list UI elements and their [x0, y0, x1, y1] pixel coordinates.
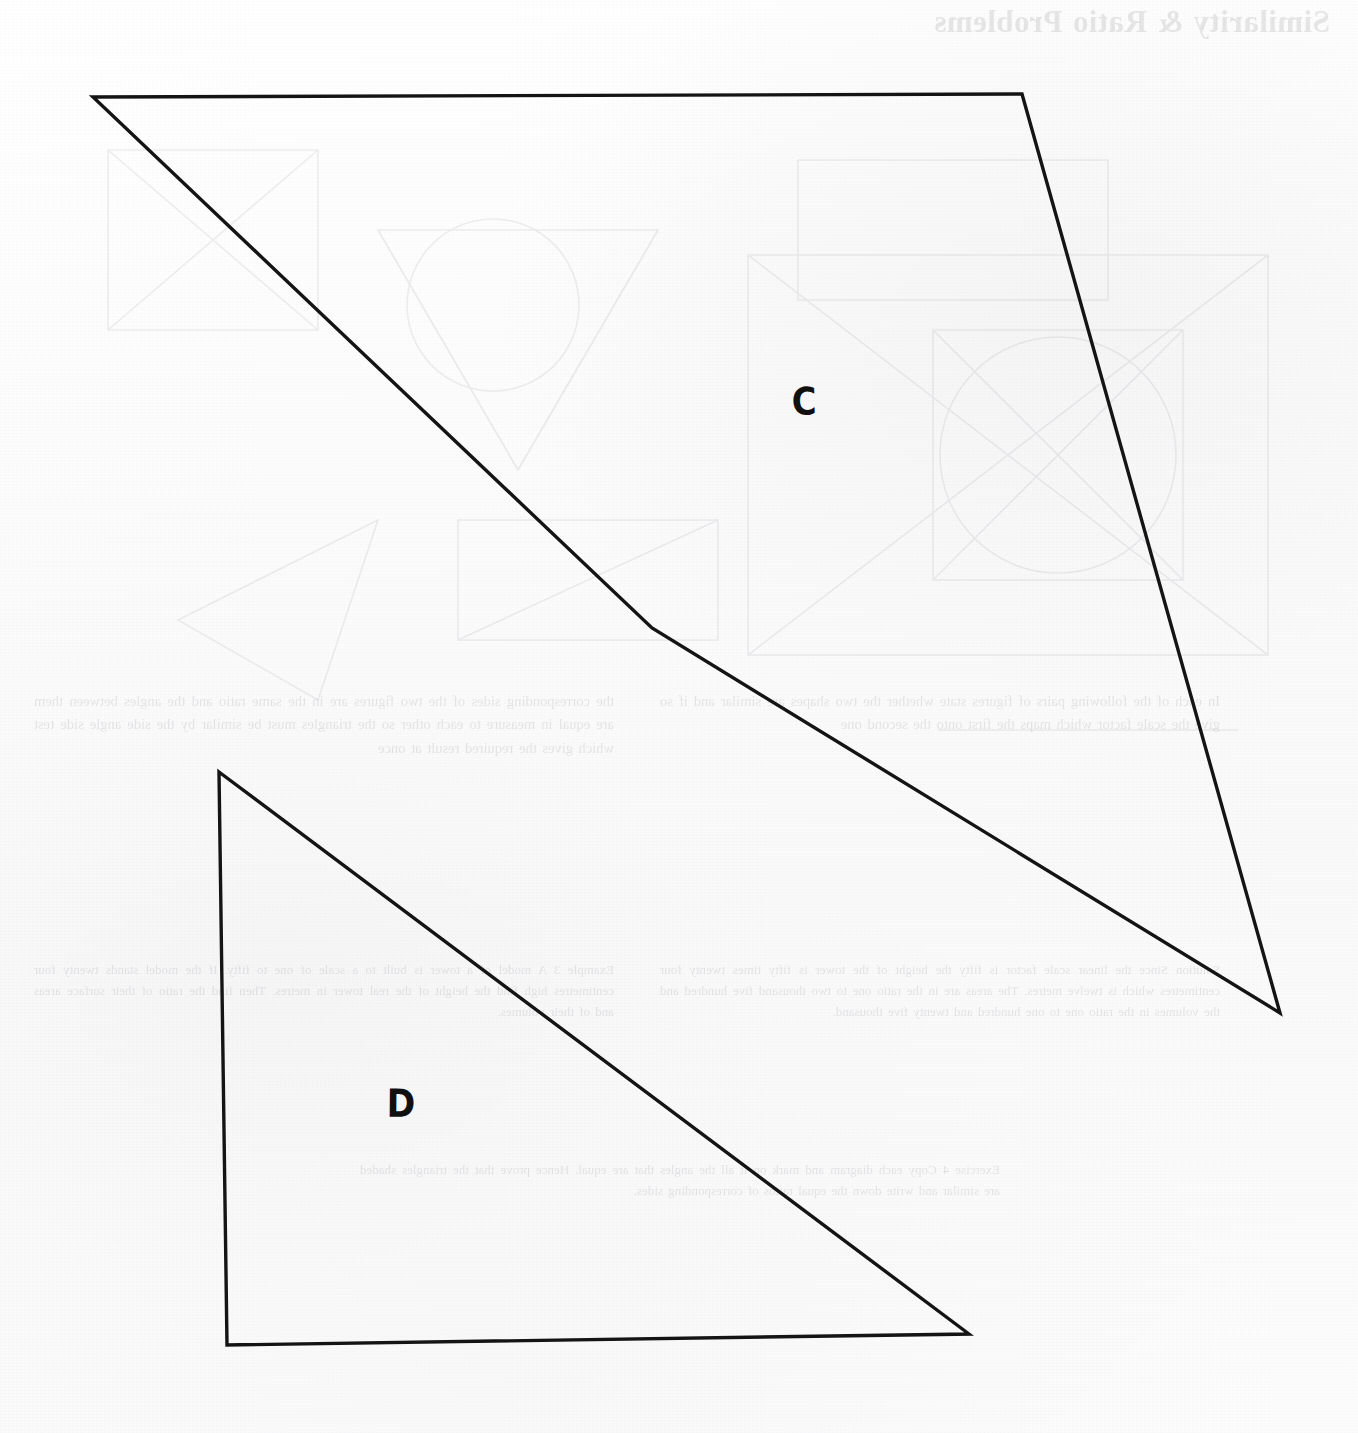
bleed-through-text-layer: Similarity & Ratio Problems the correspo… — [0, 0, 1358, 1433]
shape-c-label: C — [791, 383, 817, 422]
shape-d-label: D — [386, 1084, 415, 1123]
shape-d-outline — [219, 772, 969, 1345]
paper-texture — [0, 0, 1358, 1433]
shape-c-outline — [93, 94, 1280, 1013]
bleed-paragraph-left-upper: the corresponding sides of the two figur… — [34, 690, 614, 760]
paper-noise — [0, 0, 1358, 1433]
bleed-paragraph-mid-lower: Exercise 4 Copy each diagram and mark on… — [360, 1160, 1000, 1202]
bleed-paragraph-left-lower: Example 3 A model of a tower is built to… — [34, 960, 614, 1022]
scanned-page: Similarity & Ratio Problems the correspo… — [0, 0, 1358, 1433]
bleed-through-lineart — [0, 0, 1358, 1433]
bleed-paragraph-right-upper: In each of the following pairs of figure… — [660, 690, 1220, 737]
bleed-title: Similarity & Ratio Problems — [430, 4, 1330, 40]
bleed-paragraph-right-lower: Solution Since the linear scale factor i… — [660, 960, 1220, 1022]
geometry-figures — [0, 0, 1358, 1433]
